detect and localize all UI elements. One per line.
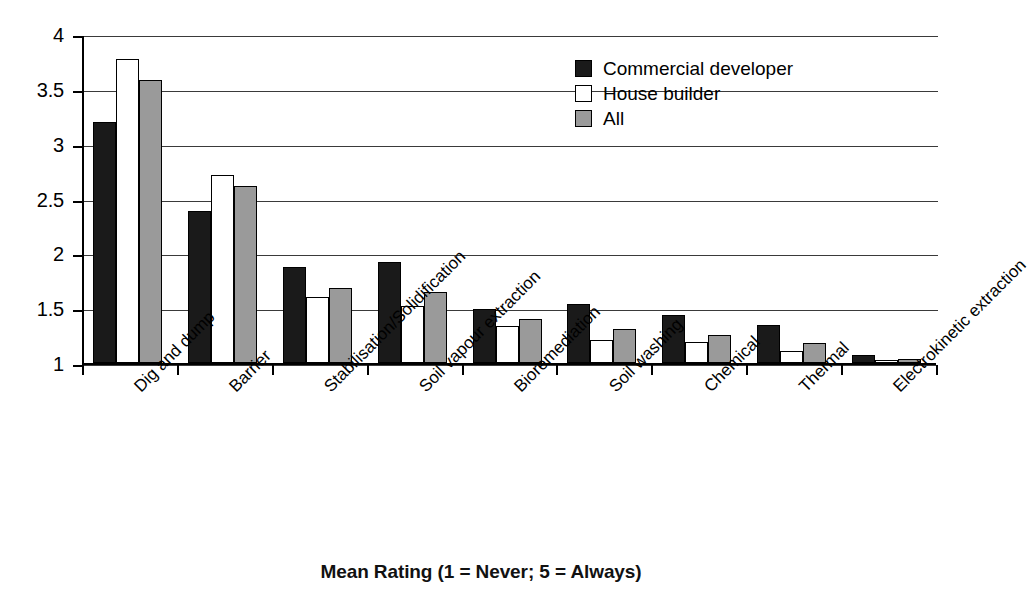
y-tick-label: 4: [18, 25, 64, 45]
y-tick-label: 1: [18, 354, 64, 374]
y-tick-mark: [73, 310, 82, 312]
y-tick-label: 3.5: [18, 80, 64, 100]
legend-swatch-house-builder: [575, 85, 592, 102]
bar-group: [283, 34, 352, 363]
x-tick-mark: [746, 365, 748, 375]
bar-commercial-developer: [852, 355, 875, 363]
x-tick-mark: [651, 365, 653, 375]
bar-all: [234, 186, 257, 363]
bar-house-builder: [496, 326, 519, 363]
bar-all: [139, 80, 162, 363]
legend-label-commercial-developer: Commercial developer: [603, 59, 793, 78]
bar-house-builder: [780, 351, 803, 363]
y-tick-mark: [73, 91, 82, 93]
bar-group: [93, 34, 162, 363]
y-tick-mark: [73, 201, 82, 203]
legend-item-commercial-developer: Commercial developer: [575, 56, 793, 81]
y-tick-label: 3: [18, 135, 64, 155]
x-tick-mark: [272, 365, 274, 375]
y-tick-label: 2.5: [18, 190, 64, 210]
x-tick-mark: [936, 365, 938, 375]
y-tick-label: 2: [18, 244, 64, 264]
x-tick-mark: [177, 365, 179, 375]
x-tick-mark: [367, 365, 369, 375]
x-tick-mark: [556, 365, 558, 375]
y-tick-mark: [73, 365, 82, 367]
bar-group: [852, 34, 921, 363]
chart-title: Mean Rating (1 = Never; 5 = Always): [0, 561, 962, 583]
y-tick-mark: [73, 146, 82, 148]
y-tick-mark: [73, 255, 82, 257]
bar-house-builder: [590, 340, 613, 363]
legend: Commercial developer House builder All: [575, 56, 793, 131]
bar-house-builder: [306, 297, 329, 363]
legend-label-all: All: [603, 109, 624, 128]
bar-house-builder: [211, 175, 234, 363]
bar-commercial-developer: [93, 122, 116, 363]
bar-commercial-developer: [283, 267, 306, 364]
y-tick-label: 1.5: [18, 299, 64, 319]
legend-item-all: All: [575, 106, 793, 131]
legend-item-house-builder: House builder: [575, 81, 793, 106]
x-tick-mark: [841, 365, 843, 375]
bar-house-builder: [116, 59, 139, 363]
y-tick-mark: [73, 36, 82, 38]
x-tick-mark: [82, 365, 84, 375]
x-tick-mark: [462, 365, 464, 375]
legend-swatch-commercial-developer: [575, 60, 592, 77]
bar-all: [329, 288, 352, 363]
legend-swatch-all: [575, 110, 592, 127]
legend-label-house-builder: House builder: [603, 84, 720, 103]
bar-house-builder: [875, 360, 898, 363]
bar-house-builder: [685, 342, 708, 363]
